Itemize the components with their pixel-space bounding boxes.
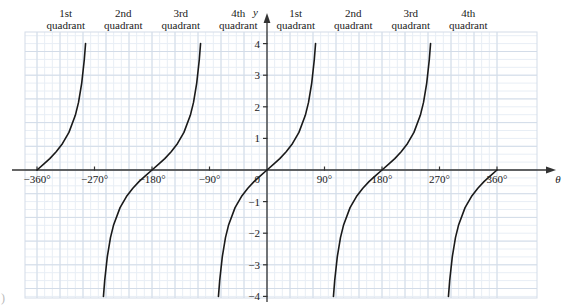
quadrant-label-word: quadrant — [277, 19, 315, 31]
x-tick-label: 270° — [429, 173, 450, 185]
quadrant-label-ordinal: 3rd — [173, 7, 188, 19]
y-tick-label: −3 — [248, 259, 260, 271]
quadrant-label-ordinal: 4th — [461, 7, 476, 19]
figure-corner-mark: ) — [1, 291, 5, 306]
y-tick-label: −1 — [248, 196, 260, 208]
quadrant-label-ordinal: 3rd — [403, 7, 418, 19]
quadrant-label-word: quadrant — [47, 19, 85, 31]
quadrant-label-ordinal: 2nd — [345, 7, 362, 19]
y-tick-label: 3 — [255, 69, 261, 81]
y-tick-label: 4 — [255, 38, 261, 50]
quadrant-label-ordinal: 4th — [231, 7, 246, 19]
y-tick-label: 2 — [255, 101, 261, 113]
quadrant-label-word: quadrant — [334, 19, 372, 31]
y-tick-label: −2 — [248, 227, 260, 239]
y-axis-label: y — [252, 6, 258, 18]
tangent-function-chart: −360°−270°−180°−90°090°180°270°360° −4−3… — [0, 0, 572, 308]
quadrant-label-word: quadrant — [104, 19, 142, 31]
quadrant-label-ordinal: 2nd — [115, 7, 132, 19]
x-tick-label: −360° — [23, 173, 50, 185]
quadrant-label-word: quadrant — [219, 19, 257, 31]
quadrant-label-word: quadrant — [162, 19, 200, 31]
x-tick-label: −90° — [199, 173, 221, 185]
quadrant-label-ordinal: 1st — [289, 7, 302, 19]
x-tick-label: −270° — [81, 173, 108, 185]
quadrant-label-word: quadrant — [392, 19, 430, 31]
x-tick-label: 0 — [255, 173, 261, 185]
x-tick-label: 180° — [372, 173, 393, 185]
x-tick-label: 90° — [317, 173, 332, 185]
quadrant-label-ordinal: 1st — [59, 7, 72, 19]
x-tick-label: 360° — [487, 173, 508, 185]
x-axis-label: θ — [555, 173, 561, 185]
y-tick-label: −4 — [248, 290, 260, 302]
tangent-graph-figure: −360°−270°−180°−90°090°180°270°360° −4−3… — [0, 0, 572, 308]
x-tick-label: −180° — [138, 173, 165, 185]
y-tick-label: 1 — [255, 132, 261, 144]
quadrant-label-word: quadrant — [449, 19, 487, 31]
